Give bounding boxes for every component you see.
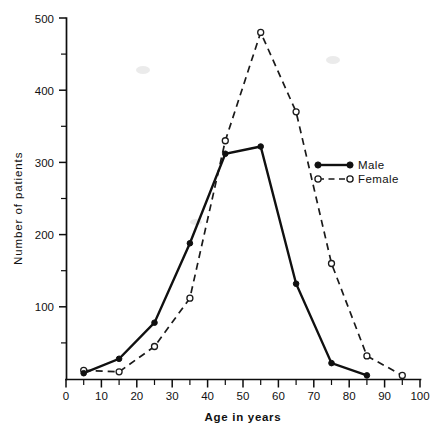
y-tick-label-500: 500 (35, 13, 54, 25)
legend-item-female[interactable]: Female (315, 173, 399, 185)
y-axis-title: Number of patients (12, 152, 24, 265)
legend-label-female: Female (358, 173, 399, 185)
x-tick-label-80: 80 (343, 390, 356, 402)
legend-item-male[interactable]: Male (315, 159, 385, 171)
y-tick-label-100: 100 (35, 301, 54, 313)
y-axis-tick-labels: 500 400 300 200 100 (35, 13, 54, 314)
data-point-female (399, 372, 405, 378)
y-tick-label-400: 400 (35, 85, 54, 97)
x-tick-label-10: 10 (95, 390, 108, 402)
x-axis-ticks (66, 380, 420, 388)
series-markers-female (81, 29, 406, 378)
legend-swatch-male-marker-end (347, 162, 353, 168)
legend-label-male: Male (358, 159, 385, 171)
x-tick-label-20: 20 (130, 390, 143, 402)
data-point-female (258, 29, 264, 35)
legend-swatch-male-marker-start (315, 162, 321, 168)
data-series-layer (81, 29, 406, 378)
data-point-male (258, 144, 264, 150)
axis-lines (66, 18, 421, 380)
line-chart-plot: 500 400 300 200 100 Number of patients (0, 0, 437, 431)
data-point-male (81, 370, 87, 376)
x-axis-title: Age in years (205, 411, 282, 423)
x-axis-tick-labels: 0 10 20 30 40 50 60 70 80 90 100 (63, 390, 430, 402)
data-point-male (329, 360, 335, 366)
series-line-male (84, 147, 367, 376)
data-point-female (329, 260, 335, 266)
y-axis-ticks (59, 18, 66, 343)
scan-artifact (326, 56, 340, 64)
data-point-male (293, 281, 299, 287)
x-tick-label-40: 40 (201, 390, 214, 402)
data-point-female (116, 369, 122, 375)
x-tick-label-30: 30 (166, 390, 179, 402)
x-tick-label-0: 0 (63, 390, 69, 402)
data-point-male (223, 151, 229, 157)
x-tick-label-90: 90 (378, 390, 391, 402)
data-point-male (187, 240, 193, 246)
data-point-female (222, 138, 228, 144)
x-tick-label-100: 100 (410, 390, 429, 402)
data-point-female (293, 109, 299, 115)
y-tick-label-300: 300 (35, 157, 54, 169)
data-point-female (364, 353, 370, 359)
x-tick-label-60: 60 (272, 390, 285, 402)
data-point-male (152, 320, 158, 326)
data-point-female (187, 295, 193, 301)
series-markers-male (81, 144, 370, 378)
legend-swatch-female-marker-end (347, 176, 353, 182)
data-point-female (152, 344, 158, 350)
scan-artifact (136, 66, 150, 74)
chart-legend: Male Female (315, 159, 399, 185)
x-tick-label-70: 70 (307, 390, 320, 402)
chart-figure: 500 400 300 200 100 Number of patients (0, 0, 437, 431)
x-tick-label-50: 50 (237, 390, 250, 402)
data-point-male (116, 356, 122, 362)
legend-swatch-female-marker-start (315, 176, 321, 182)
y-tick-label-200: 200 (35, 229, 54, 241)
data-point-male (364, 373, 370, 379)
series-line-female (84, 32, 403, 375)
